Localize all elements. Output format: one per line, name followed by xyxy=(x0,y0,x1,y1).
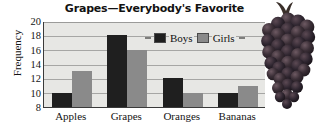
y-tick-label: 8 xyxy=(21,103,41,114)
bar-bananas-boys xyxy=(218,93,238,107)
y-tick-label: 12 xyxy=(21,74,41,85)
bar-bananas-girls xyxy=(238,86,258,108)
x-tick-label-bananas: Bananas xyxy=(210,110,266,122)
bar-grapes-boys xyxy=(107,35,127,107)
y-axis-tick-labels: 8101214161820 xyxy=(19,22,41,108)
legend-swatch-boys xyxy=(154,33,166,43)
y-tick-label: 14 xyxy=(21,60,41,71)
y-tick-label: 16 xyxy=(21,46,41,57)
x-tick-label-grapes: Grapes xyxy=(99,110,155,122)
bar-chart-figure: Grapes—Everybody's Favorite Frequency 81… xyxy=(0,0,321,132)
bar-grapes-girls xyxy=(127,50,147,107)
bar-oranges-girls xyxy=(183,93,203,107)
bar-oranges-boys xyxy=(163,78,183,107)
x-tick-label-oranges: Oranges xyxy=(154,110,210,122)
legend-swatch-girls xyxy=(197,33,209,43)
bar-apples-boys xyxy=(52,93,72,107)
legend-label-boys: Boys xyxy=(169,33,194,44)
legend-rule-left xyxy=(145,37,151,39)
bar-apples-girls xyxy=(72,71,92,107)
legend-rule-right xyxy=(239,37,245,39)
x-tick-label-apples: Apples xyxy=(43,110,99,122)
y-tick-label: 20 xyxy=(21,17,41,28)
y-tick-label: 10 xyxy=(21,89,41,100)
legend-label-girls: Girls xyxy=(212,33,236,44)
x-axis-tick-labels: ApplesGrapesOrangesBananas xyxy=(43,110,265,130)
chart-legend: Boys Girls xyxy=(145,31,245,45)
y-tick-label: 18 xyxy=(21,31,41,42)
chart-title: Grapes—Everybody's Favorite xyxy=(62,2,247,15)
